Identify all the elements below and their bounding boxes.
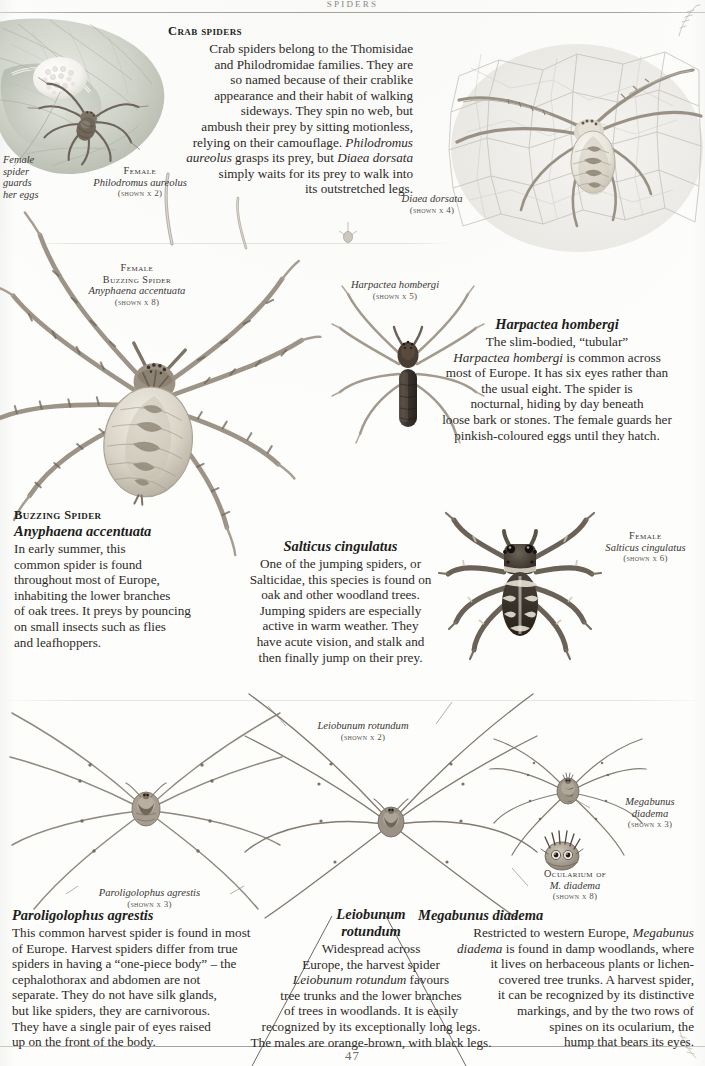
megabunus-caption-scale: (shown x 3) [600, 819, 700, 831]
section-separator-1 [30, 243, 450, 244]
anyphaena-caption-common: Buzzing Spider [62, 274, 212, 286]
harpactea-section: Harpactea hombergi The slim-bodied, “tub… [418, 316, 696, 443]
buzzing-spider-heading-species: Anyphaena accentuata [14, 523, 204, 540]
megabunus-section: Megabunus diadema Restricted to western … [418, 907, 694, 1050]
megabunus-heading: Megabunus diadema [418, 907, 694, 924]
anyphaena-caption-scale: (shown x 8) [62, 297, 212, 309]
megabunus-caption-genus: Megabunus [600, 796, 700, 808]
leiobunum-caption-scale: (shown x 2) [288, 732, 438, 744]
buzzing-spider-body: In early summer, thiscommon spider is fo… [14, 541, 204, 650]
diaea-dorsata-on-web-illustration [437, 40, 705, 255]
paroligolophus-agrestis-illustration [10, 705, 280, 910]
anyphaena-caption-sex: Female [62, 262, 212, 274]
page-number: 47 [0, 1048, 705, 1064]
harpactea-caption: Harpactea hombergi (shown x 5) [330, 279, 460, 302]
paroligolophus-heading: Paroligolophus agrestis [12, 907, 252, 924]
diaea-caption-species: Diaea dorsata [372, 193, 492, 205]
harpactea-caption-scale: (shown x 5) [330, 291, 460, 303]
paroligolophus-caption-species: Paroligolophus agrestis [72, 887, 227, 899]
crab-spiders-heading: Crab spiders [168, 24, 413, 39]
philodromus-caption-scale: (shown x 2) [70, 188, 210, 200]
leiobunum-caption-species: Leiobunum rotundum [288, 720, 438, 732]
ocularium-caption-species: M. diadema [512, 880, 638, 892]
harpactea-body: The slim-bodied, “tubular”Harpactea homb… [418, 334, 696, 443]
salticus-caption-scale: (shown x 6) [588, 553, 703, 565]
paroligolophus-body: This common harvest spider is found in m… [12, 925, 252, 1050]
harpactea-caption-species: Harpactea hombergi [330, 279, 460, 291]
salticus-caption-sex: Female [588, 530, 703, 542]
salticus-heading: Salticus cingulatus [228, 538, 453, 555]
philodromus-caption-species: Philodromus aureolus [70, 177, 210, 189]
ocularium-caption-scale: (shown x 8) [512, 891, 638, 903]
book-page: SPIDERS 47 [0, 0, 705, 1066]
leiobunum-caption: Leiobunum rotundum (shown x 2) [288, 720, 438, 743]
buzzing-spider-section: Buzzing Spider Anyphaena accentuata In e… [14, 508, 204, 650]
salticus-section: Salticus cingulatus One of the jumping s… [228, 538, 453, 665]
anyphaena-caption-species: Anyphaena accentuata [62, 285, 212, 297]
ocularium-caption: Ocularium of M. diadema (shown x 8) [512, 868, 638, 903]
buzzing-spider-heading-common: Buzzing Spider [14, 508, 204, 523]
corner-flourish-top-right [676, 4, 702, 38]
diaea-dorsata-caption: Diaea dorsata (shown x 4) [372, 193, 492, 216]
philodromus-caption-sex: Female [70, 165, 210, 177]
harpactea-heading: Harpactea hombergi [418, 316, 696, 333]
top-rule [0, 12, 705, 13]
female-guards-eggs-caption: Femalespiderguardsher eggs [3, 154, 63, 200]
salticus-cingulatus-illustration [435, 508, 605, 668]
salticus-caption-species: Salticus cingulatus [588, 542, 703, 554]
megabunus-caption-species: diadema [600, 808, 700, 820]
ocularium-caption-label: Ocularium of [512, 868, 638, 880]
section-separator-2 [0, 700, 705, 701]
megabunus-caption: Megabunus diadema (shown x 3) [600, 796, 700, 831]
paroligolophus-section: Paroligolophus agrestis This common harv… [12, 907, 252, 1050]
running-head: SPIDERS [0, 0, 705, 9]
anyphaena-caption: Female Buzzing Spider Anyphaena accentua… [62, 262, 212, 308]
megabunus-body: Restricted to western Europe, Megabunusd… [418, 925, 694, 1050]
diaea-caption-scale: (shown x 4) [372, 205, 492, 217]
philodromus-aureolus-caption: Female Philodromus aureolus (shown x 2) [70, 165, 210, 200]
salticus-caption: Female Salticus cingulatus (shown x 6) [588, 530, 703, 565]
salticus-body: One of the jumping spiders, orSalticidae… [228, 556, 453, 665]
hanging-spiderling-illustration [338, 222, 358, 248]
